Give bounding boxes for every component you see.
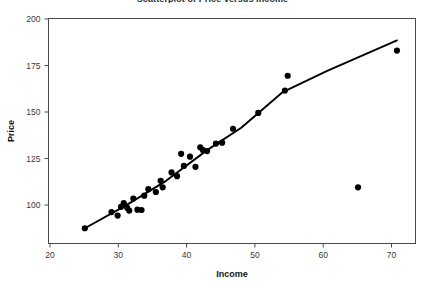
- data-point: [115, 213, 121, 219]
- data-point: [145, 186, 151, 192]
- x-tick-label: 20: [45, 250, 55, 260]
- data-point: [285, 73, 291, 79]
- y-tick-label: 100: [26, 200, 40, 210]
- data-point: [174, 173, 180, 179]
- data-point: [138, 207, 144, 213]
- data-point: [82, 225, 88, 231]
- x-axis-title: Income: [216, 269, 248, 279]
- data-point: [213, 141, 219, 147]
- data-point: [158, 178, 164, 184]
- data-point: [282, 88, 288, 94]
- data-point: [130, 195, 136, 201]
- x-tick-label: 70: [387, 250, 397, 260]
- y-tick-label: 125: [26, 154, 40, 164]
- x-tick-label: 50: [250, 250, 260, 260]
- y-tick-label: 175: [26, 61, 40, 71]
- chart-figure: Scatterplot of Price versus Income 10012…: [0, 0, 425, 281]
- data-point: [394, 48, 400, 54]
- data-point: [160, 184, 166, 190]
- y-tick-label: 150: [26, 107, 40, 117]
- data-point: [141, 193, 147, 199]
- data-point: [126, 207, 132, 213]
- data-point: [178, 151, 184, 157]
- data-point: [219, 140, 225, 146]
- scatter-plot-canvas: 100125150175200 203040506070 Income Pric…: [0, 0, 425, 281]
- x-tick-label: 30: [114, 250, 124, 260]
- x-tick-label: 60: [318, 250, 328, 260]
- y-tick-label: 200: [26, 14, 40, 24]
- y-axis-title: Price: [6, 120, 16, 142]
- data-point: [192, 164, 198, 170]
- data-point: [255, 110, 261, 116]
- data-point: [168, 169, 174, 175]
- data-point: [355, 184, 361, 190]
- data-point: [187, 154, 193, 160]
- data-point: [181, 163, 187, 169]
- x-axis-tick-group: 203040506070: [45, 244, 396, 260]
- data-point: [108, 209, 114, 215]
- data-point: [204, 148, 210, 154]
- data-point: [230, 126, 236, 132]
- x-tick-label: 40: [182, 250, 192, 260]
- y-axis-tick-group: 100125150175200: [26, 14, 48, 210]
- data-point: [153, 189, 159, 195]
